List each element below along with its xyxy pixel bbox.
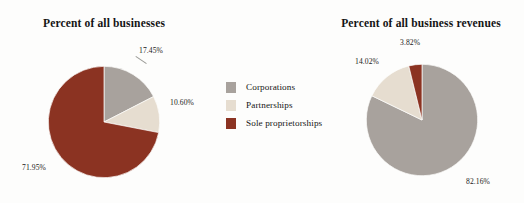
left-pie-label-sole-proprietorships: 71.95% — [22, 163, 46, 172]
left-chart-title: Percent of all businesses — [0, 17, 208, 29]
left-pie-label-partnerships: 10.60% — [170, 98, 194, 107]
right-pie-label-partnerships: 14.02% — [355, 57, 379, 66]
left-pie-chart — [46, 64, 162, 180]
right-pie-label-corporations: 82.16% — [466, 177, 490, 186]
right-pie-label-sole-proprietorships: 3.82% — [400, 38, 420, 47]
legend-item-partnerships: Partnerships — [226, 96, 336, 114]
left-leader-line-corporations — [135, 56, 146, 64]
left-pie-svg — [46, 64, 162, 180]
legend-swatch-partnerships — [226, 100, 236, 111]
legend-item-corporations: Corporations — [226, 78, 336, 96]
right-pie-svg — [364, 62, 480, 178]
legend-label-partnerships: Partnerships — [246, 100, 293, 110]
right-pie-chart — [364, 62, 480, 178]
legend: Corporations Partnerships Sole proprieto… — [226, 78, 336, 132]
legend-label-sole-proprietorships: Sole proprietorships — [246, 118, 322, 128]
left-pie-label-corporations: 17.45% — [139, 46, 163, 55]
chart-page: Percent of all businesses Percent of all… — [0, 0, 524, 203]
legend-label-corporations: Corporations — [246, 82, 295, 92]
right-chart-title: Percent of all business revenues — [318, 17, 524, 29]
legend-swatch-sole-proprietorships — [226, 118, 236, 129]
legend-item-sole-proprietorships: Sole proprietorships — [226, 114, 336, 132]
legend-swatch-corporations — [226, 82, 236, 93]
